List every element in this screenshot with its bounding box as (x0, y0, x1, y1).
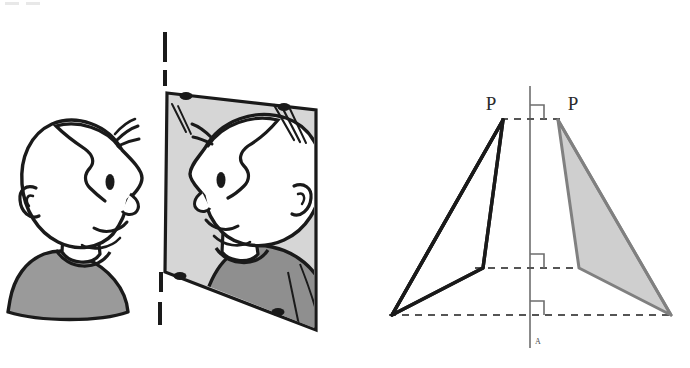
right-angle-mark (530, 301, 544, 315)
boy-eye (106, 174, 115, 190)
left-scene-svg (0, 0, 345, 368)
figure-root: P P A (0, 0, 690, 368)
mirror-corner-mount (174, 272, 187, 280)
right-angle-mark (530, 105, 544, 119)
right-diagram-svg: P P A (345, 0, 690, 368)
boy-facing-mirror-scene (0, 0, 345, 368)
boy-profile (8, 119, 142, 320)
right-angle-mark (530, 254, 544, 268)
mirror-corner-mount (180, 92, 193, 100)
right-angle-marks (530, 105, 544, 315)
mirror-corner-mount (272, 308, 285, 316)
reflection-geometry-diagram: P P A (345, 0, 690, 368)
wall-mirror (165, 92, 330, 340)
mirror-corner-mount (278, 103, 291, 111)
label-P-image: P (568, 93, 579, 114)
reflection-eye (217, 172, 226, 188)
label-A-axis-foot: A (535, 337, 541, 346)
label-P-object: P (486, 93, 497, 114)
boy-head (22, 120, 142, 247)
boy-quiff-tuft (118, 139, 139, 146)
mirror-plane-dashed-line (160, 32, 165, 325)
